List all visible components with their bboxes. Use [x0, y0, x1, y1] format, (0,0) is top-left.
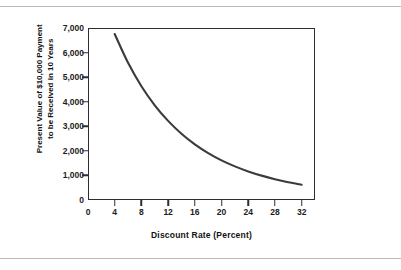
y-axis-tick-label: 4,000 [50, 97, 84, 106]
x-axis-tick-label: 4 [103, 208, 127, 217]
x-axis-tick-mark [247, 200, 249, 206]
plot-area [88, 28, 315, 200]
x-axis-tick-label: 0 [76, 208, 100, 217]
x-axis-tick-mark [221, 200, 223, 206]
x-axis-tick-label: 28 [263, 208, 287, 217]
x-axis-tick-label: 12 [156, 208, 180, 217]
y-axis-title-wrapper: Present Value of $10,000 Payment to be R… [22, 28, 42, 200]
figure-card: Present Value of $10,000 Payment to be R… [0, 0, 401, 270]
y-axis-tick-label: 6,000 [50, 48, 84, 57]
y-axis-tick-label: 1,000 [50, 171, 84, 180]
x-axis-tick-mark [141, 200, 143, 206]
y-axis-tick-labels: 01,0002,0003,0004,0005,0006,0007,000 [46, 28, 84, 200]
y-axis-tick-label: 3,000 [50, 122, 84, 131]
x-axis-tick-mark [114, 200, 116, 206]
top-divider-rule [0, 6, 401, 7]
x-axis-tick-mark [167, 200, 169, 206]
x-axis-tick-label: 16 [183, 208, 207, 217]
x-axis-tick-label: 20 [210, 208, 234, 217]
x-axis-tick-mark [194, 200, 196, 206]
y-axis-tick-label: 5,000 [50, 73, 84, 82]
x-axis-tick-mark [301, 200, 303, 206]
x-axis-tick-label: 8 [129, 208, 153, 217]
present-value-curve [115, 34, 302, 185]
y-axis-tick-label: 2,000 [50, 147, 84, 156]
x-axis-tick-label: 32 [290, 208, 314, 217]
x-axis-title: Discount Rate (Percent) [88, 230, 315, 240]
x-axis-tick-label: 24 [236, 208, 260, 217]
y-axis-title-line1: Present Value of $10,000 Payment [35, 24, 44, 153]
y-axis-tick-label: 0 [50, 196, 84, 205]
x-axis-tick-mark [274, 200, 276, 206]
y-axis-tick-label: 7,000 [50, 24, 84, 33]
bottom-divider-rule [0, 258, 401, 259]
